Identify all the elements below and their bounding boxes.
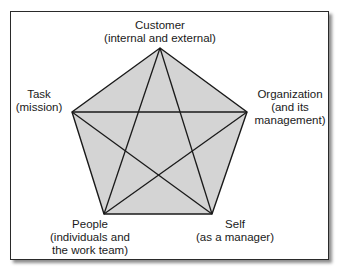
node-subtitle-line1: (and its xyxy=(250,101,330,114)
node-title: Task xyxy=(14,88,64,101)
node-task: Task (mission) xyxy=(14,88,64,114)
node-subtitle-line2: management) xyxy=(250,114,330,127)
node-subtitle-line1: (individuals and xyxy=(50,231,130,244)
node-self: Self (as a manager) xyxy=(190,218,280,244)
node-title: Organization xyxy=(250,88,330,101)
node-title: Customer xyxy=(100,19,220,32)
node-subtitle-line2: the work team) xyxy=(50,244,130,257)
node-subtitle: (mission) xyxy=(14,101,64,114)
node-title: People xyxy=(50,218,130,231)
node-subtitle: (internal and external) xyxy=(100,32,220,45)
node-title: Self xyxy=(190,218,280,231)
node-organization: Organization (and its management) xyxy=(250,88,330,127)
node-subtitle: (as a manager) xyxy=(190,231,280,244)
node-people: People (individuals and the work team) xyxy=(50,218,130,257)
node-customer: Customer (internal and external) xyxy=(100,19,220,45)
